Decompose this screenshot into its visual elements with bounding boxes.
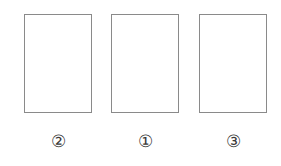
- rectangle-panel-right[interactable]: [199, 14, 267, 113]
- circled-number-icon: ①: [138, 133, 153, 150]
- circled-number-icon: ②: [51, 133, 66, 150]
- panel-group: ② ① ③: [0, 0, 281, 166]
- panel-label-center: ①: [111, 126, 179, 156]
- rectangle-panel-left[interactable]: [24, 14, 92, 113]
- panel-label-left: ②: [24, 126, 92, 156]
- rectangle-panel-center[interactable]: [111, 14, 179, 113]
- panel-label-right: ③: [199, 126, 267, 156]
- figure-canvas: ② ① ③: [0, 0, 281, 166]
- circled-number-icon: ③: [226, 133, 241, 150]
